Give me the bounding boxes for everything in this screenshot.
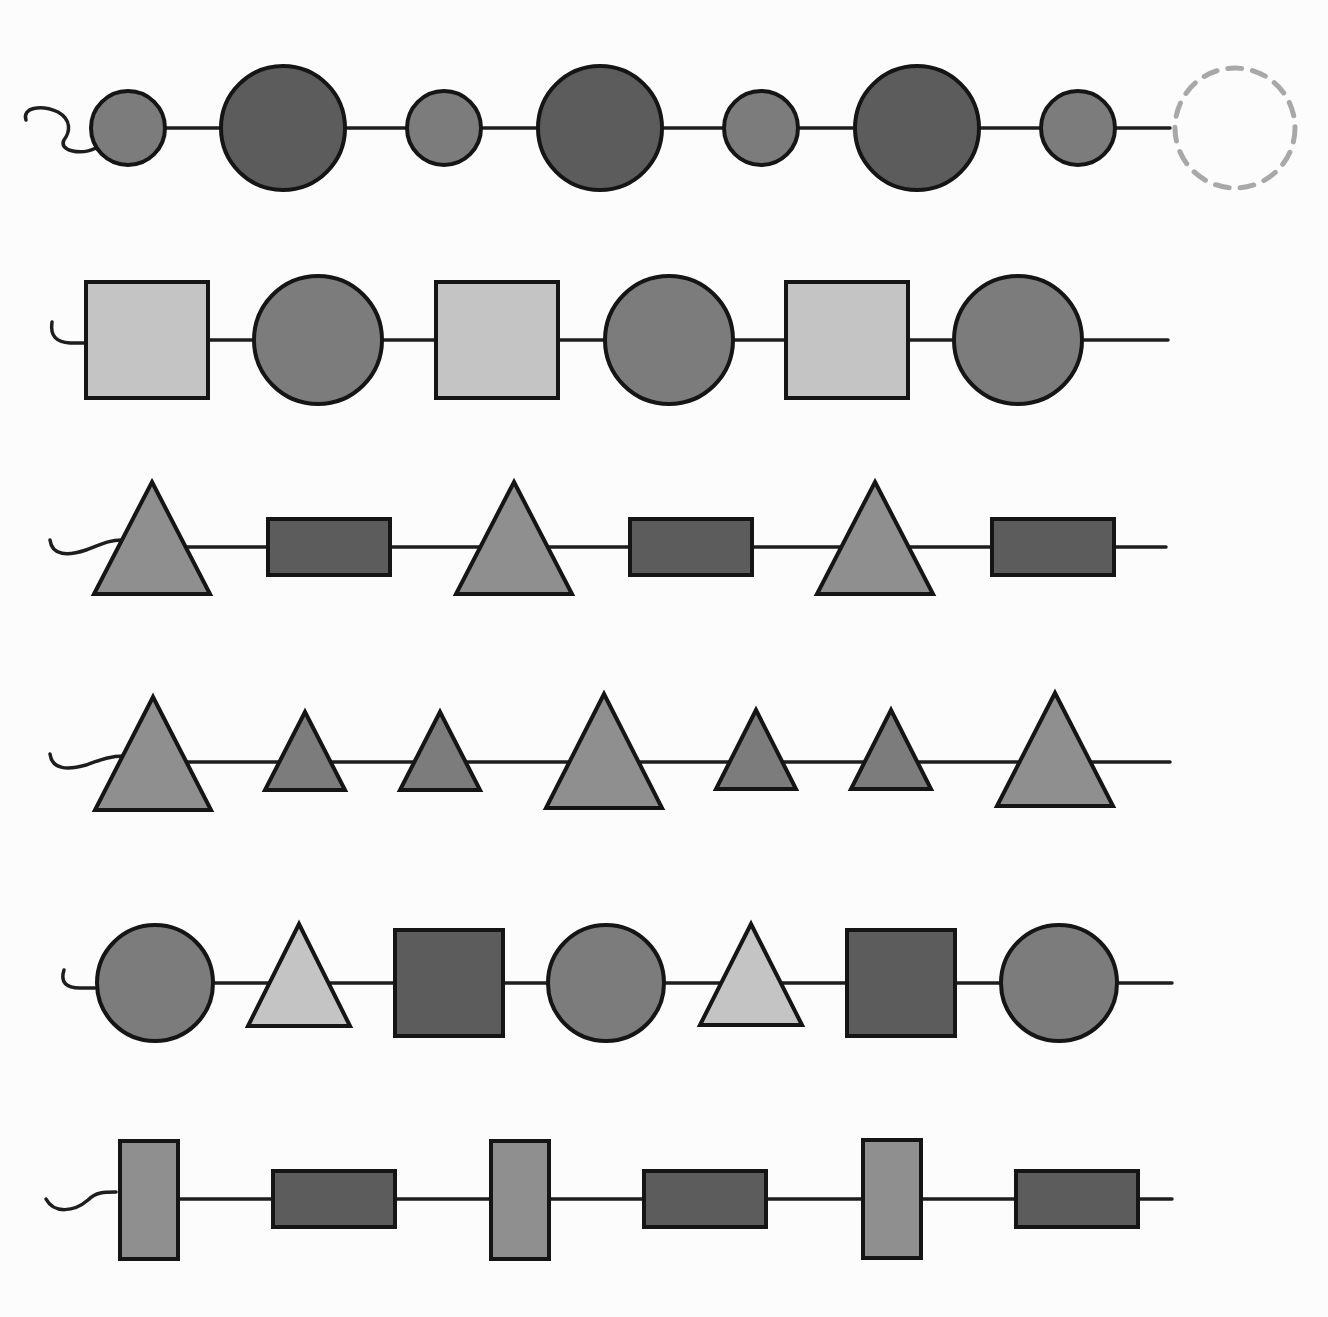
bead-pattern-puzzle xyxy=(0,0,1328,1317)
circle-bead xyxy=(97,925,213,1041)
rect-bead xyxy=(630,519,752,575)
triangle-bead xyxy=(400,712,480,790)
string-tail xyxy=(52,322,85,343)
rect-bead xyxy=(395,930,503,1036)
circle-bead xyxy=(221,66,345,190)
circle-bead xyxy=(538,66,662,190)
string-tail xyxy=(46,1192,116,1210)
bead-string-5 xyxy=(63,924,1172,1041)
triangle-bead xyxy=(997,693,1113,806)
rect-bead xyxy=(786,282,908,398)
circle-bead xyxy=(855,66,979,190)
bead-string-6 xyxy=(46,1140,1172,1259)
rect-bead xyxy=(268,519,390,575)
bead-string-3 xyxy=(50,482,1166,594)
bead-string-4 xyxy=(50,693,1170,810)
rect-bead xyxy=(863,1140,921,1258)
rect-bead xyxy=(86,282,208,398)
triangle-bead xyxy=(265,712,345,790)
triangle-bead xyxy=(95,697,211,810)
circle-bead xyxy=(605,276,733,404)
circle-bead xyxy=(1041,91,1115,165)
rect-bead xyxy=(992,519,1114,575)
rect-bead xyxy=(491,1141,549,1259)
rect-bead xyxy=(436,282,558,398)
string-tail xyxy=(50,754,124,768)
triangle-bead xyxy=(248,924,350,1026)
bead-string-1 xyxy=(25,66,1295,190)
rect-bead xyxy=(1016,1171,1138,1227)
triangle-bead xyxy=(94,482,210,594)
circle-bead xyxy=(91,91,165,165)
rect-bead xyxy=(273,1171,395,1227)
circle-bead xyxy=(548,925,664,1041)
triangle-bead xyxy=(851,710,931,789)
circle-bead xyxy=(954,276,1082,404)
rect-bead xyxy=(120,1141,178,1259)
circle-bead xyxy=(1001,925,1117,1041)
string-tail xyxy=(63,970,95,988)
circle-bead xyxy=(407,91,481,165)
triangle-bead xyxy=(817,482,933,594)
string-tail xyxy=(50,540,122,554)
triangle-bead xyxy=(716,710,796,789)
circle-bead xyxy=(254,276,382,404)
missing-bead-slot[interactable] xyxy=(1175,68,1295,188)
circle-bead xyxy=(724,91,798,165)
bead-string-2 xyxy=(52,276,1168,404)
triangle-bead xyxy=(700,924,802,1025)
triangle-bead xyxy=(546,694,662,808)
rect-bead xyxy=(644,1171,766,1227)
string-tail xyxy=(25,108,96,152)
triangle-bead xyxy=(456,482,572,594)
rect-bead xyxy=(847,930,955,1036)
